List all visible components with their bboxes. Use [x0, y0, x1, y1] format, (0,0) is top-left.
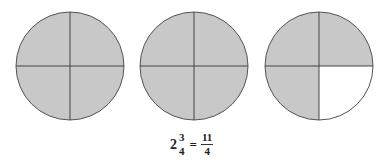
- improper-denominator: 4: [204, 145, 210, 157]
- unshaded-quarter: [319, 66, 373, 120]
- mixed-numerator: 3: [178, 132, 186, 144]
- circle-1-whole: [16, 12, 124, 120]
- improper-numerator: 11: [201, 132, 213, 144]
- circle-2-whole: [140, 12, 248, 120]
- equals-sign: =: [190, 138, 197, 151]
- circle-3-three-quarters: [265, 12, 373, 120]
- whole-number: 2: [170, 138, 177, 152]
- mixed-denominator: 4: [179, 145, 185, 157]
- improper-fraction: 11 4: [201, 132, 213, 157]
- mixed-to-improper-equation: 2 3 4 = 11 4: [170, 132, 213, 157]
- mixed-fraction: 3 4: [178, 132, 186, 157]
